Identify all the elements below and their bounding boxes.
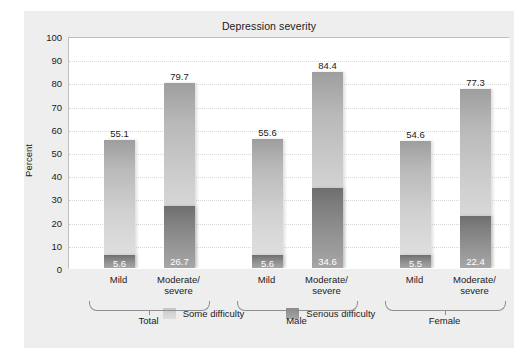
bar-group	[252, 139, 283, 268]
gridline	[69, 131, 509, 132]
category-label: Moderate/severe	[293, 274, 361, 296]
y-axis-tick: 80	[51, 78, 62, 89]
bar-value-label: 79.7	[170, 71, 189, 82]
bar-inner-value-label: 22.4	[466, 256, 485, 267]
y-axis-tick: 90	[51, 55, 62, 66]
y-axis-label: Percent	[23, 144, 34, 177]
group-label: Total	[104, 315, 194, 326]
bar-value-label: 55.6	[258, 127, 277, 138]
gridline	[69, 84, 509, 85]
category-label: Mild	[233, 274, 301, 285]
bar-group	[312, 72, 343, 268]
bar-segment-some-difficulty	[104, 140, 135, 268]
chart-panel: Depression severity Percent 100908070605…	[24, 11, 514, 348]
bar-inner-value-label: 5.6	[261, 258, 274, 269]
group-label: Male	[252, 315, 342, 326]
gridline	[69, 200, 509, 201]
gridline	[69, 224, 509, 225]
group-bracket	[385, 301, 506, 311]
gridline	[69, 108, 509, 109]
y-axis-tick: 0	[57, 264, 62, 275]
bar-group	[164, 83, 195, 268]
chart-title: Depression severity	[24, 20, 514, 32]
y-axis-tick: 60	[51, 124, 62, 135]
y-axis-tick: 40	[51, 171, 62, 182]
gridline	[69, 247, 509, 248]
bar-value-label: 54.6	[406, 129, 425, 140]
bar-group	[400, 141, 431, 268]
gridline	[69, 177, 509, 178]
bar-inner-value-label: 5.6	[113, 258, 126, 269]
bar-group	[460, 89, 491, 268]
bar-inner-value-label: 26.7	[170, 256, 189, 267]
bar-value-label: 77.3	[466, 77, 485, 88]
y-axis-tick: 100	[46, 32, 62, 43]
y-axis-tick: 10	[51, 240, 62, 251]
y-axis-tick: 30	[51, 194, 62, 205]
gridline	[69, 154, 509, 155]
gridline	[69, 61, 509, 62]
category-label: Moderate/severe	[145, 274, 213, 296]
y-axis-tick: 70	[51, 101, 62, 112]
chart-figure: Depression severity Percent 100908070605…	[0, 0, 518, 361]
bar-value-label: 55.1	[110, 128, 129, 139]
bar-segment-some-difficulty	[400, 141, 431, 268]
group-bracket	[89, 301, 210, 311]
bar-segment-some-difficulty	[252, 139, 283, 268]
group-bracket	[237, 301, 358, 311]
category-label: Moderate/severe	[441, 274, 509, 296]
category-label: Mild	[85, 274, 153, 285]
bar-value-label: 84.4	[318, 60, 337, 71]
bar-group	[104, 140, 135, 268]
bar-inner-value-label: 34.6	[318, 256, 337, 267]
bar-inner-value-label: 5.5	[409, 258, 422, 269]
group-label: Female	[400, 315, 490, 326]
category-label: Mild	[381, 274, 449, 285]
y-axis-tick: 20	[51, 217, 62, 228]
plot-area: 55.15.679.726.755.65.684.434.654.65.577.…	[68, 37, 510, 269]
y-axis: Percent 1009080706050403020100	[24, 37, 66, 269]
y-axis-tick: 50	[51, 148, 62, 159]
